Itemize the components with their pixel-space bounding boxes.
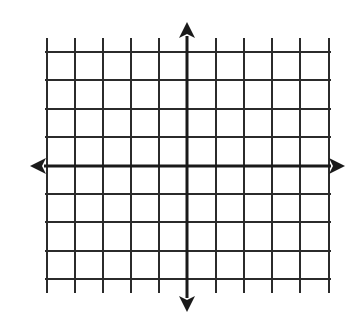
coordinate-plane <box>0 0 356 322</box>
background <box>0 0 356 322</box>
